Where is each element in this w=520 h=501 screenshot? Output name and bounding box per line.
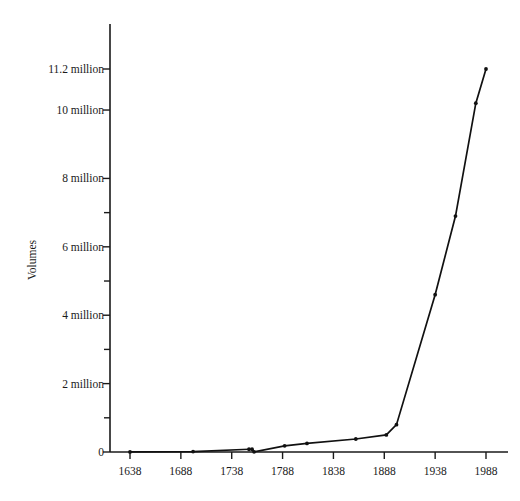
y-axis-title: Volumes	[26, 239, 38, 280]
x-tick-label: 1688	[169, 465, 192, 477]
y-tick-label: 10 million	[56, 104, 104, 116]
y-tick-label: 11.2 million	[48, 63, 104, 75]
x-axis-ticks	[130, 452, 486, 459]
x-tick-label: 1638	[119, 465, 142, 477]
y-tick-label: 2 million	[62, 378, 104, 390]
x-tick-label: 1938	[424, 465, 447, 477]
data-series-group	[128, 67, 488, 454]
data-point	[395, 423, 399, 427]
data-point	[384, 433, 388, 437]
y-tick-label: 4 million	[62, 309, 104, 321]
y-axis: 02 million4 million6 million8 million10 …	[26, 24, 110, 458]
data-point	[474, 101, 478, 105]
x-tick-label: 1788	[271, 465, 294, 477]
y-axis-ticks	[103, 69, 110, 452]
data-point	[252, 450, 256, 454]
y-tick-label: 6 million	[62, 241, 104, 253]
data-point	[354, 437, 358, 441]
volumes-line-chart: 02 million4 million6 million8 million10 …	[0, 0, 520, 501]
data-point	[128, 450, 132, 454]
chart-container: 02 million4 million6 million8 million10 …	[0, 0, 520, 501]
data-point	[454, 214, 458, 218]
x-tick-label: 1838	[322, 465, 345, 477]
data-point	[433, 293, 437, 297]
y-axis-tick-labels: 02 million4 million6 million8 million10 …	[48, 63, 104, 458]
data-point	[305, 442, 309, 446]
x-tick-label: 1888	[373, 465, 396, 477]
x-axis: 16381688173817881838188819381988	[110, 452, 508, 477]
x-tick-label: 1738	[220, 465, 243, 477]
data-point	[283, 444, 287, 448]
data-point	[484, 67, 488, 71]
data-point	[191, 450, 195, 454]
y-tick-label: 0	[98, 446, 104, 458]
data-point-markers	[128, 67, 488, 454]
data-line-volumes	[130, 69, 486, 452]
y-tick-label: 8 million	[62, 172, 104, 184]
x-axis-tick-labels: 16381688173817881838188819381988	[119, 465, 498, 477]
x-tick-label: 1988	[475, 465, 498, 477]
